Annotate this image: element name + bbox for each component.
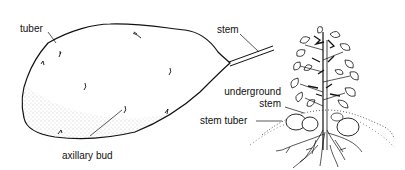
- stem-leader: [240, 34, 259, 52]
- label-underground-stem-line1: underground: [219, 86, 281, 97]
- potato-diagram: tuber stem axillary bud underground stem…: [0, 0, 405, 170]
- label-underground-stem-line2: stem: [219, 98, 281, 109]
- label-stem-tuber: stem tuber: [200, 115, 247, 126]
- label-tuber: tuber: [20, 23, 43, 34]
- underground-stem-leader: [285, 107, 304, 113]
- diagram-drawing: [0, 0, 405, 170]
- label-stem: stem: [217, 24, 239, 35]
- stolon-stem: [229, 46, 274, 66]
- tuber-shading: [10, 80, 200, 150]
- label-axillary-bud: axillary bud: [62, 150, 113, 161]
